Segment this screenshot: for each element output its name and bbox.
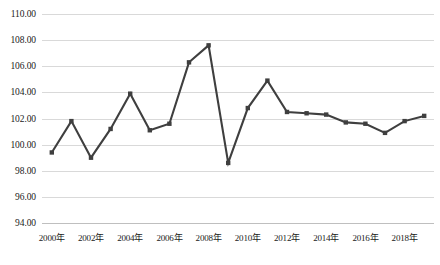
data-point-marker (265, 78, 269, 82)
data-point-marker (246, 106, 250, 110)
data-point-marker (402, 119, 406, 123)
plot-area (0, 0, 440, 265)
data-point-marker (167, 122, 171, 126)
data-point-marker (422, 114, 426, 118)
data-point-marker (226, 161, 230, 165)
line-chart: 110.00108.00106.00104.00102.00100.0098.0… (0, 0, 440, 265)
data-point-marker (108, 127, 112, 131)
data-point-marker (363, 122, 367, 126)
data-point-marker (324, 112, 328, 116)
data-point-marker (304, 111, 308, 115)
data-point-marker (148, 128, 152, 132)
data-point-marker (50, 150, 54, 154)
data-point-marker (383, 131, 387, 135)
data-point-markers (50, 43, 427, 165)
data-point-marker (128, 91, 132, 95)
data-point-marker (206, 43, 210, 47)
data-point-marker (89, 155, 93, 159)
data-point-marker (285, 110, 289, 114)
data-point-marker (187, 60, 191, 64)
data-point-marker (344, 120, 348, 124)
data-series-line (52, 45, 424, 163)
data-point-marker (69, 119, 73, 123)
